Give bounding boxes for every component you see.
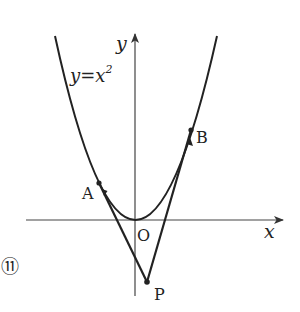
x-axis-label: x [264, 220, 275, 242]
y-axis-label: y [115, 32, 127, 54]
curve-equation-base: y=x [69, 65, 105, 86]
label-b: B [196, 128, 208, 147]
origin-label: O [137, 226, 150, 245]
curve-equation-label: y=x2 [69, 63, 112, 86]
curve-equation-exponent: 2 [104, 63, 112, 76]
figure-number-label: ⑪ [1, 256, 19, 277]
point-b [188, 127, 193, 132]
diagram-canvas: y x O y=x2 A B P ⑪ [0, 0, 300, 312]
parabola-curve [55, 36, 217, 220]
label-a: A [81, 184, 94, 203]
label-p: P [154, 285, 165, 304]
segment-pb [147, 130, 193, 282]
point-p [144, 279, 150, 285]
point-a [96, 180, 101, 185]
